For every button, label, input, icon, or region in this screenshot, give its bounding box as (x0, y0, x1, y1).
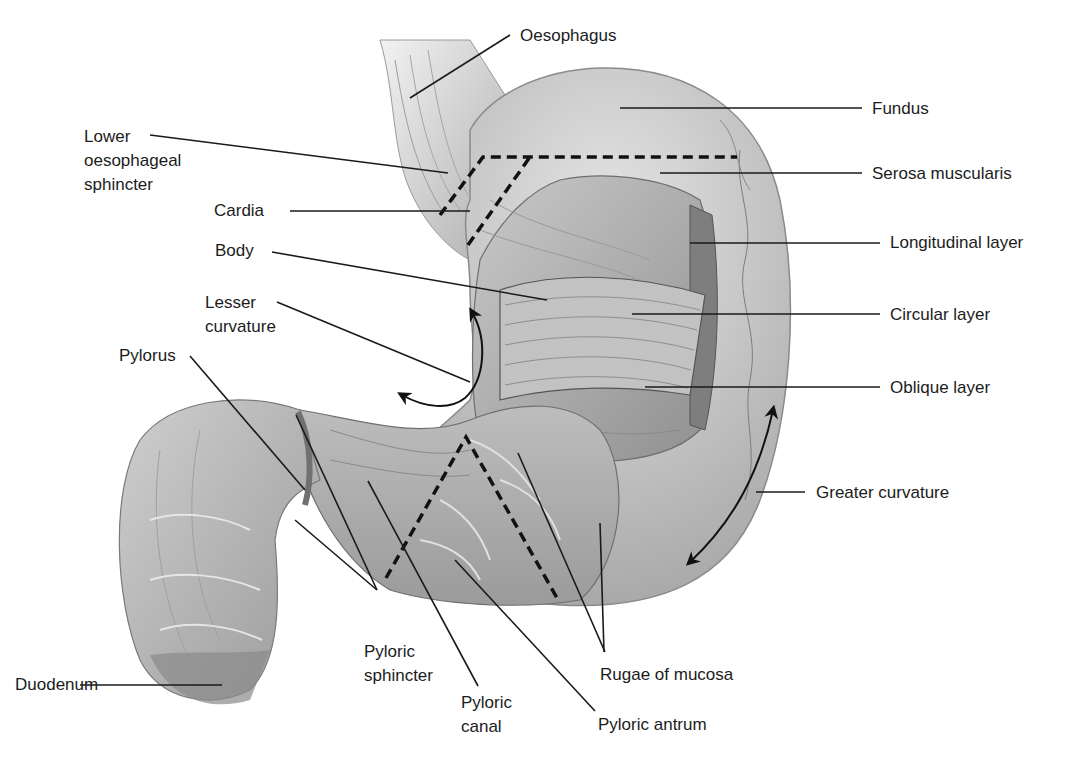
label-pyloric-sphincter: Pyloric sphincter (364, 640, 433, 688)
label-rugae-of-mucosa: Rugae of mucosa (600, 664, 733, 686)
label-lesser-curvature: Lesser curvature (205, 291, 276, 339)
label-circular-layer: Circular layer (890, 304, 990, 326)
label-serosa-muscularis: Serosa muscularis (872, 163, 1012, 185)
label-greater-curvature: Greater curvature (816, 482, 949, 504)
label-pyloric-canal: Pyloric canal (461, 691, 512, 739)
label-body: Body (215, 240, 254, 262)
label-oblique-layer: Oblique layer (890, 377, 990, 399)
duodenum-shape (119, 400, 320, 704)
label-fundus: Fundus (872, 98, 929, 120)
label-cardia: Cardia (214, 200, 264, 222)
label-pylorus: Pylorus (119, 345, 176, 367)
label-lower-oesophageal-sphincter: Lower oesophageal sphincter (84, 125, 181, 197)
label-pyloric-antrum: Pyloric antrum (598, 714, 707, 736)
label-longitudinal-layer: Longitudinal layer (890, 232, 1023, 254)
label-oesophagus: Oesophagus (520, 25, 616, 47)
label-duodenum: Duodenum (15, 674, 98, 696)
